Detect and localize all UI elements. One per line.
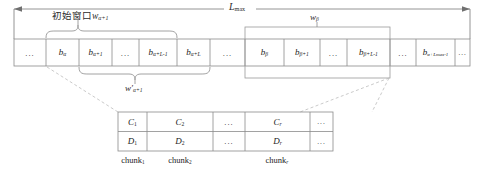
chunk-label-2-sub: 2 — [189, 159, 192, 165]
diagram-vector-layer — [0, 0, 488, 178]
diagram-canvas: Lmax 初始窗口wα+1 wβ w′α+1 ... bα bα+1 ... b… — [0, 0, 488, 178]
projection-right — [300, 78, 389, 112]
table-cell-d-4-dots: ... — [317, 137, 326, 146]
w-beta-sub: β — [316, 16, 319, 22]
lmax-sub: max — [235, 5, 246, 12]
initial-window-brace — [46, 20, 177, 38]
w-prime-brace — [79, 67, 210, 84]
initial-window-text: 初始窗口 — [52, 10, 92, 21]
w-prime-label: w′α+1 — [125, 84, 142, 94]
chunk-label-r: chunkr — [251, 155, 303, 165]
chunk-label-1-sub: 1 — [142, 159, 145, 165]
chunk-label-r-sub: r — [286, 159, 288, 165]
block-strip-outline — [14, 39, 470, 66]
table-cell-c-3: Cr — [245, 112, 310, 132]
table-cell-d-4: ... — [310, 132, 333, 152]
table-cell-d-1-sub: 2 — [182, 140, 185, 146]
table-cell-c-2: ... — [213, 112, 245, 132]
w-prime-sub: α+1 — [133, 87, 142, 93]
chunk-label-2-base: chunk — [168, 155, 189, 165]
chunk-label-1: chunk1 — [107, 155, 159, 165]
table-cell-c-0-sub: 1 — [134, 121, 137, 127]
table-cell-c-0: C1 — [118, 112, 147, 132]
chunk-label-2: chunk2 — [154, 155, 206, 165]
table-cell-d-3: Dr — [245, 132, 310, 152]
chunk-label-r-base: chunk — [266, 155, 287, 165]
lmax-arrow-right — [462, 6, 470, 12]
table-cell-c-4: ... — [310, 112, 333, 132]
lmax-label: Lmax — [229, 2, 245, 13]
table-cell-d-1: D2 — [147, 132, 213, 152]
projection-right-2 — [372, 78, 389, 112]
initial-window-w-sub: α+1 — [98, 15, 108, 21]
w-beta-label: wβ — [310, 13, 319, 23]
table-cell-c-2-dots: ... — [224, 117, 233, 127]
lmax-arrow-left — [14, 6, 22, 12]
table-cell-c-1: C2 — [147, 112, 213, 132]
chunk-label-1-base: chunk — [121, 155, 142, 165]
table-cell-c-1-sub: 2 — [182, 121, 185, 127]
table-cell-d-2-dots: ... — [224, 136, 233, 146]
table-cell-d-2: ... — [213, 132, 245, 152]
w-beta-highlight-rect — [245, 27, 390, 78]
table-cell-d-3-sub: r — [280, 140, 282, 146]
table-cell-c-4-dots: ... — [317, 117, 326, 126]
table-cell-d-0: D1 — [118, 132, 147, 152]
table-cell-d-0-sub: 1 — [134, 140, 137, 146]
table-cell-c-3-sub: r — [279, 121, 281, 127]
block-strip-group — [14, 39, 470, 66]
initial-window-label: 初始窗口wα+1 — [52, 11, 108, 22]
